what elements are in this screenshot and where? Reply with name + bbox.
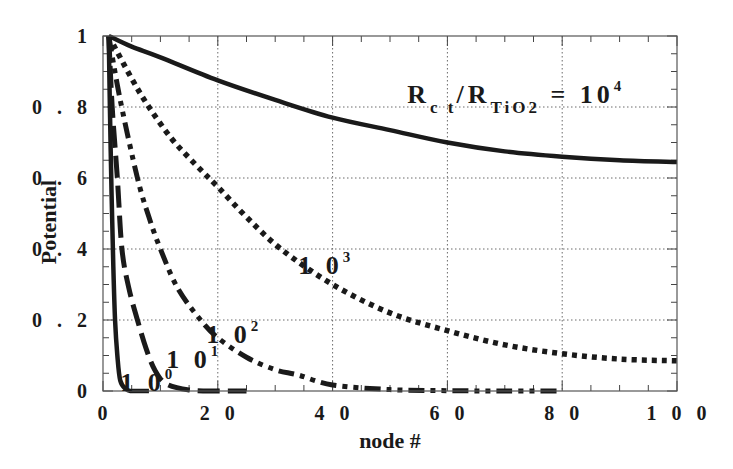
- x-tick-label: 0: [98, 402, 113, 424]
- x-tick-labels: 02 04 06 08 01 0 0: [98, 402, 712, 424]
- x-tick-label: 4 0: [315, 402, 355, 424]
- x-tick-label: 6 0: [429, 402, 469, 424]
- potential-vs-node-chart: 02 04 06 08 01 0 0 00 . 20 . 40 . 60 . 8…: [0, 0, 733, 469]
- y-tick-label: 0 . 2: [32, 309, 92, 331]
- curve-10e2: [109, 36, 562, 391]
- y-tick-label: 0: [77, 380, 92, 402]
- y-tick-label: 0 . 8: [32, 96, 92, 118]
- x-tick-label: 2 0: [200, 402, 240, 424]
- curve-label-10e4: Rc t/RTiO2 = 104: [407, 78, 622, 117]
- x-axis-label: node #: [359, 428, 421, 453]
- x-tick-label: 1 0 0: [647, 402, 712, 424]
- x-tick-label: 8 0: [544, 402, 584, 424]
- curve-label-10e3: 1 03: [298, 249, 350, 280]
- curve-label-10e0: 1 00: [120, 366, 172, 397]
- y-axis-label: Potential: [36, 180, 61, 264]
- curve-label-10e1: 1 01: [166, 343, 218, 374]
- y-tick-label: 1: [77, 25, 92, 47]
